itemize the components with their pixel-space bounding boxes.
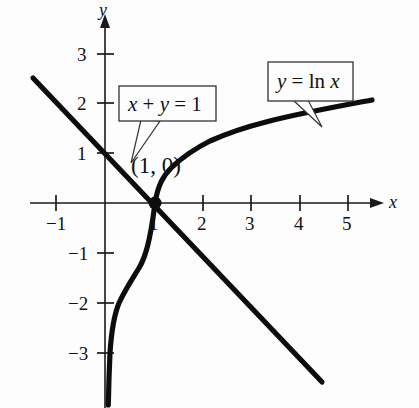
plot-canvas	[0, 0, 419, 408]
callout-text-line-equation: x + y = 1	[128, 94, 202, 115]
callout-line-plus: +	[137, 92, 159, 116]
callout-line-value: 1	[191, 92, 202, 116]
callout-line-equals: =	[169, 92, 191, 116]
curve-ln-x	[108, 100, 372, 405]
callout-line-var-y: y	[160, 92, 169, 116]
y-tick-label-neg3: −3	[68, 344, 88, 363]
intersection-point-label: (1, 0)	[131, 154, 181, 177]
callout-curve-func-ln: ln	[309, 69, 331, 93]
curve-line-x-plus-y	[33, 78, 322, 382]
y-axis-label: y	[99, 1, 107, 19]
callout-text-curve-equation: y = ln x	[277, 71, 340, 92]
intersection-point-marker	[149, 197, 162, 210]
x-tick-label-4: 4	[294, 214, 304, 233]
x-tick-label-1: 1	[149, 214, 159, 233]
x-tick-label-3: 3	[245, 214, 255, 233]
x-tick-label-5: 5	[342, 214, 352, 233]
y-tick-label-3: 3	[77, 45, 87, 64]
x-axis-arrowhead	[370, 198, 384, 208]
x-axis-label: x	[389, 193, 397, 211]
x-axis	[30, 198, 384, 208]
callout-curve-var-x: x	[330, 69, 339, 93]
y-tick-label-neg1: −1	[68, 244, 88, 263]
math-graph-figure: −1 1 2 3 4 5 3 2 1 −1 −2 −3 x y (1, 0) x…	[0, 0, 419, 408]
y-tick-label-2: 2	[77, 94, 87, 113]
callout-curve-var-y: y	[277, 69, 286, 93]
x-tick-label-neg1: −1	[46, 214, 66, 233]
y-tick-label-1: 1	[77, 144, 87, 163]
y-tick-label-neg2: −2	[68, 294, 88, 313]
callout-line-var-x: x	[128, 92, 137, 116]
callout-curve-equals: =	[286, 69, 308, 93]
x-tick-label-2: 2	[197, 214, 207, 233]
